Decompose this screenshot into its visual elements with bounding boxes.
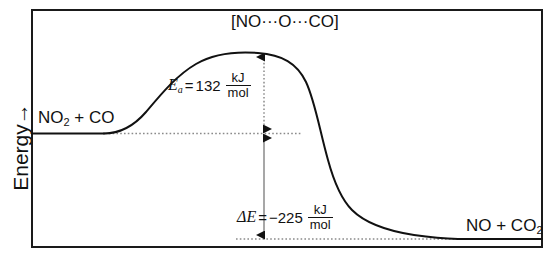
ea-symbol: Ea (168, 76, 183, 95)
delta-e-value: −225 (269, 209, 303, 226)
reactants-label: NO2 + CO (38, 108, 115, 128)
ea-symbol-subscript: a (178, 84, 183, 95)
ea-value: 132 (196, 77, 221, 94)
products-label-text: NO + CO (466, 216, 536, 235)
delta-e-unit-fraction: kJ mol (308, 203, 333, 231)
delta-e-symbol: ΔE (237, 208, 256, 226)
activation-energy-annotation: Ea = 132 kJ mol (168, 71, 251, 99)
delta-e-unit-denominator: mol (308, 217, 333, 232)
delta-energy-annotation: ΔE = −225 kJ mol (237, 203, 333, 231)
energy-diagram-figure: Energy→ NO2 + CO NO + CO2 [NO···O···CO] (0, 0, 555, 266)
reactants-label-text: NO (38, 108, 64, 127)
delta-e-equals: = (258, 209, 267, 226)
ea-symbol-letter: E (168, 76, 178, 93)
reactants-label-suffix: + CO (70, 108, 115, 127)
ea-unit-fraction: kJ mol (226, 71, 251, 99)
delta-e-unit-numerator: kJ (312, 203, 329, 217)
transition-state-label: [NO···O···CO] (231, 12, 339, 32)
products-label-subscript: 2 (536, 224, 542, 236)
ea-unit-numerator: kJ (230, 71, 247, 85)
ea-equals: = (185, 77, 194, 94)
products-label: NO + CO2 (466, 216, 543, 236)
ea-unit-denominator: mol (226, 85, 251, 100)
